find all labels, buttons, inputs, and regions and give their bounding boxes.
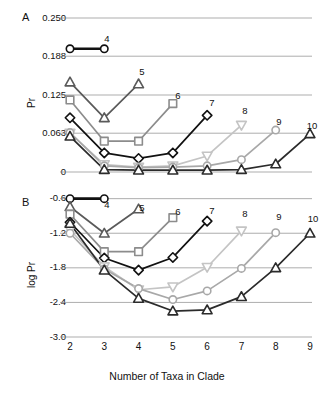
series-label-9: 9: [270, 211, 288, 222]
panel-b-plot: [0, 0, 334, 398]
data-point-marker: [203, 287, 210, 294]
series-label-10: 10: [304, 213, 322, 224]
series-label-8: 8: [236, 208, 254, 219]
x-tick-label: 7: [231, 341, 251, 352]
figure-root: A Pr 00.0630.1250.1880.250 45678910 B lo…: [0, 0, 334, 398]
x-tick-label: 2: [60, 341, 80, 352]
data-point-marker: [305, 228, 315, 237]
data-point-marker: [169, 296, 176, 303]
series-label-4: 4: [98, 199, 116, 210]
series-label-5: 5: [133, 202, 151, 213]
series-label-7: 7: [203, 205, 221, 216]
series-line-7: [70, 221, 207, 270]
x-tick-label: 8: [266, 341, 286, 352]
data-point-marker: [66, 230, 73, 237]
x-axis-title: Number of Taxa in Clade: [0, 370, 334, 382]
data-point-marker: [272, 229, 279, 236]
data-point-marker: [134, 265, 143, 274]
x-tick-label: 4: [129, 341, 149, 352]
data-point-marker: [65, 202, 75, 211]
series-label-6: 6: [169, 206, 187, 217]
x-tick-label: 9: [300, 341, 320, 352]
data-point-marker: [135, 285, 142, 292]
x-tick-label: 3: [94, 341, 114, 352]
x-tick-label: 6: [197, 341, 217, 352]
data-point-marker: [135, 248, 143, 256]
data-point-marker: [238, 265, 245, 272]
x-tick-label: 5: [163, 341, 183, 352]
